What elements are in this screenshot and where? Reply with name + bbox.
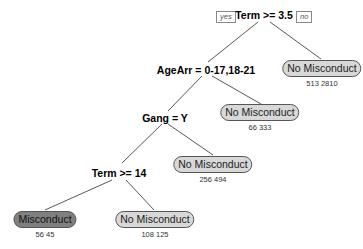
leaf-node-2: No Misconduct 66 333 <box>220 102 299 132</box>
split-node-term-14: Term >= 14 <box>92 167 147 179</box>
leaf-node-4: Misconduct 56 45 <box>13 209 76 239</box>
leaf-label: No Misconduct <box>220 104 299 121</box>
leaf-label: No Misconduct <box>282 60 361 77</box>
leaf-counts: 256 494 <box>173 175 252 184</box>
branch-label-no: no <box>296 11 312 23</box>
leaf-counts: 513 2810 <box>282 79 361 88</box>
leaf-label: Misconduct <box>13 211 76 228</box>
leaf-counts: 56 45 <box>13 230 76 239</box>
split-node-gang: Gang = Y <box>142 112 188 124</box>
leaf-counts: 108 125 <box>115 230 194 239</box>
leaf-node-1: No Misconduct 513 2810 <box>282 58 361 88</box>
leaf-counts: 66 333 <box>220 123 299 132</box>
leaf-node-3: No Misconduct 256 494 <box>173 154 252 184</box>
leaf-label: No Misconduct <box>173 156 252 173</box>
split-node-agearr: AgeArr = 0-17,18-21 <box>157 64 255 76</box>
split-node-term-3-5: Term >= 3.5 <box>235 9 293 21</box>
leaf-label: No Misconduct <box>115 211 194 228</box>
leaf-node-5: No Misconduct 108 125 <box>115 209 194 239</box>
branch-label-yes: yes <box>216 11 236 23</box>
